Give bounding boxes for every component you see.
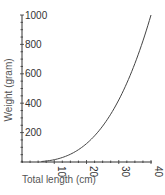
y-tick-label: 200 [25,127,42,138]
y-axis: 2004006008001000 [20,10,48,163]
x-tick-label: 30 [120,166,131,178]
y-tick-label: 1000 [25,10,48,21]
x-tick-label: 40 [153,166,164,178]
y-tick-label: 800 [25,39,42,50]
y-axis-title: Weight (gram) [3,58,14,121]
weight-curve [41,15,151,162]
y-tick-label: 400 [25,98,42,109]
x-axis-title: Total length (cm) [22,174,96,185]
y-tick-label: 600 [25,68,42,79]
length-weight-chart: 2004006008001000 10203040 Weight (gram) … [0,0,165,195]
